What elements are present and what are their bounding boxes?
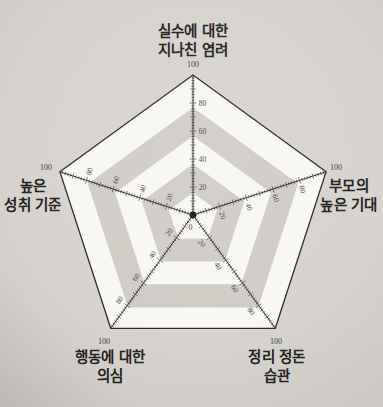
axis-max-label: 100 [98, 337, 110, 346]
axis-max-label: 100 [40, 163, 52, 172]
tick-value-label: 60 [199, 127, 207, 136]
center-dot [190, 212, 197, 219]
axis-name-line: 지나친 염려 [158, 42, 228, 58]
axis-name-line: 정리 정돈 [248, 348, 305, 365]
origin-label: 0 [189, 223, 193, 232]
axis-name-line: 높은 기대 [320, 197, 377, 213]
axis-name-line: 의심 [97, 367, 124, 384]
axis-name-line: 부모의 [329, 177, 369, 194]
axis-name-line: 성취 기준 [4, 196, 61, 213]
radar-chart: 20406080100실수에 대한지나친 염려20406080100부모의높은 … [0, 0, 383, 407]
axis-name-line: 높은 [20, 178, 47, 194]
axis-max-label: 100 [330, 163, 342, 172]
axis-name-line: 행동에 대한 [75, 349, 146, 365]
axis-name-line: 습관 [264, 368, 291, 384]
axis-max-label: 100 [187, 60, 199, 69]
axis-name-line: 실수에 대한 [158, 23, 229, 39]
tick-value-label: 80 [199, 99, 207, 108]
book-page: 20406080100실수에 대한지나친 염려20406080100부모의높은 … [0, 0, 383, 407]
axis-max-label: 100 [270, 337, 282, 346]
tick-value-label: 20 [199, 183, 207, 192]
tick-value-label: 40 [199, 155, 207, 164]
